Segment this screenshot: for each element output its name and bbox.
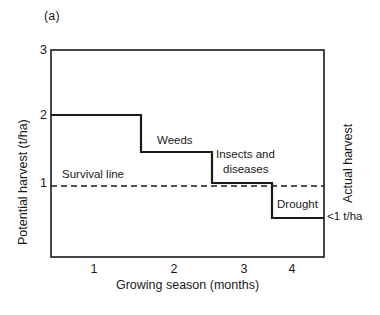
insects-diseases-label-line1: Insects and <box>216 148 275 160</box>
plot-frame <box>51 50 324 257</box>
final-yield-label: <1 t/ha <box>327 210 363 222</box>
insects-diseases-label-line2: diseases <box>223 163 268 175</box>
drought-label: Drought <box>277 198 318 210</box>
weeds-label: Weeds <box>157 134 193 146</box>
figure-container: (a) Potential harvest (t/ha) Actual harv… <box>0 0 380 315</box>
plot-svg <box>0 0 380 315</box>
survival-line-label: Survival line <box>62 168 124 180</box>
